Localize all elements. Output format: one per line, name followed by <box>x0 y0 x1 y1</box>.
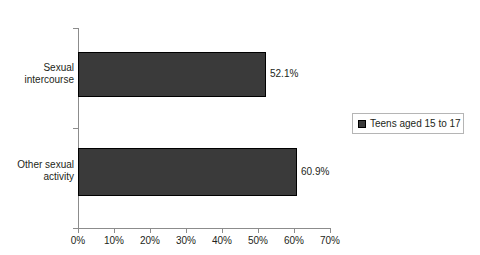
y-axis-category-label-line: activity <box>2 171 74 183</box>
y-axis-tick <box>73 128 78 129</box>
chart-legend: Teens aged 15 to 17 <box>352 113 464 134</box>
y-axis-category-label-line: Other sexual <box>2 159 74 171</box>
x-axis-tick-label: 30% <box>166 235 206 247</box>
x-axis-tick <box>150 229 151 233</box>
bar-value-label: 60.9% <box>301 166 329 178</box>
x-axis-tick <box>258 229 259 233</box>
bar-other-sexual-activity <box>78 148 297 196</box>
x-axis-tick-label: 0% <box>58 235 98 247</box>
x-axis-tick-label: 10% <box>94 235 134 247</box>
bar-value-label: 52.1% <box>270 68 298 80</box>
y-axis-tick <box>73 28 78 29</box>
x-axis-tick <box>78 229 79 233</box>
bar-sexual-intercourse <box>78 52 266 97</box>
x-axis-tick-label: 20% <box>130 235 170 247</box>
x-axis-tick-label: 70% <box>310 235 350 247</box>
y-axis-category-label-line: Sexual <box>2 62 74 74</box>
x-axis-tick-label: 40% <box>202 235 242 247</box>
bar-chart: 0% 10% 20% 30% 40% 50% 60% 70% Sexual in… <box>0 0 480 255</box>
y-axis-category-label-line: intercourse <box>2 74 74 86</box>
x-axis-tick <box>294 229 295 233</box>
x-axis-tick <box>330 229 331 233</box>
x-axis-tick <box>222 229 223 233</box>
x-axis-tick <box>114 229 115 233</box>
x-axis-tick-label: 50% <box>238 235 278 247</box>
x-axis-tick <box>186 229 187 233</box>
x-axis-tick-label: 60% <box>274 235 314 247</box>
legend-entry-label: Teens aged 15 to 17 <box>370 118 461 130</box>
legend-swatch-icon <box>358 120 366 128</box>
